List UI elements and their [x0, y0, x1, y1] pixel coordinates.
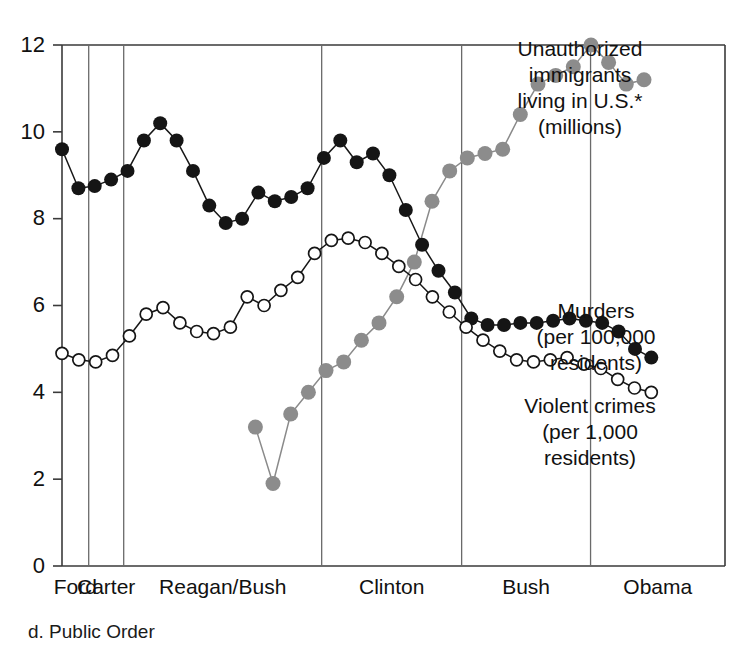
- series-0-point-0: [248, 420, 263, 435]
- annotation-violent-crimes-line-1: (per 1,000: [542, 420, 638, 443]
- series-2-point-6: [157, 302, 169, 314]
- series-1-point-22: [415, 238, 429, 252]
- series-2-point-2: [90, 356, 102, 368]
- series-1-point-20: [382, 168, 396, 182]
- series-0-point-14: [495, 142, 510, 157]
- series-2-point-28: [528, 356, 540, 368]
- y-tick-label-5: 10: [21, 119, 45, 144]
- series-1-point-13: [268, 194, 282, 208]
- series-0-point-3: [301, 385, 316, 400]
- public-order-figure: 024681012 FordCarterReagan/BushClintonBu…: [0, 0, 749, 657]
- annotation-murders-line-0: Murders: [557, 299, 634, 322]
- series-annotations: Unauthorizedimmigrantsliving in U.S.*(mi…: [518, 37, 656, 469]
- series-2-point-19: [376, 247, 388, 259]
- annotation-murders-line-2: residents): [550, 351, 642, 374]
- series-0-point-7: [372, 315, 387, 330]
- series-0-point-2: [283, 407, 298, 422]
- x-era-label-bush: Bush: [502, 575, 550, 598]
- x-era-label-obama: Obama: [623, 575, 692, 598]
- series-1-point-27: [497, 318, 511, 332]
- series-1-point-4: [121, 164, 135, 178]
- series-2-point-1: [73, 354, 85, 366]
- series-2-point-27: [511, 354, 523, 366]
- series-0-point-10: [425, 194, 440, 209]
- series-1-point-2: [88, 179, 102, 193]
- series-1-point-26: [481, 318, 495, 332]
- series-2-point-5: [140, 308, 152, 320]
- series-0-point-8: [389, 289, 404, 304]
- annotation-murders-line-1: (per 100,000: [536, 325, 655, 348]
- x-era-label-reagan-bush: Reagan/Bush: [159, 575, 286, 598]
- series-2-point-24: [460, 321, 472, 333]
- series-1-point-9: [202, 199, 216, 213]
- series-1-point-18: [350, 155, 364, 169]
- series-0-point-12: [460, 150, 475, 165]
- x-axis-labels: FordCarterReagan/BushClintonBushObama: [54, 575, 693, 598]
- series-1-point-10: [219, 216, 233, 230]
- series-2-point-33: [612, 373, 624, 385]
- series-0-point-11: [442, 163, 457, 178]
- annotation-violent-crimes-line-0: Violent crimes: [524, 394, 656, 417]
- y-tick-label-6: 12: [21, 32, 45, 57]
- series-1-point-23: [432, 264, 446, 278]
- y-tick-label-3: 6: [33, 292, 45, 317]
- x-era-label-carter: Carter: [77, 575, 135, 598]
- series-2-point-34: [629, 382, 641, 394]
- series-1-point-0: [55, 142, 69, 156]
- y-tick-label-4: 8: [33, 205, 45, 230]
- series-2-point-12: [258, 300, 270, 312]
- axis-ticks: [53, 45, 62, 566]
- series-1-point-5: [137, 134, 151, 148]
- annotation-unauthorized-immigrants-line-0: Unauthorized: [518, 37, 643, 60]
- y-tick-label-1: 2: [33, 466, 45, 491]
- series-0-point-22: [637, 72, 652, 87]
- series-2-point-25: [477, 334, 489, 346]
- series-1-point-8: [186, 164, 200, 178]
- series-1-point-19: [366, 147, 380, 161]
- series-2-point-3: [107, 349, 119, 361]
- series-1-point-28: [513, 316, 527, 330]
- series-2-point-15: [309, 247, 321, 259]
- series-1-point-1: [71, 181, 85, 195]
- series-0-point-4: [319, 363, 334, 378]
- annotation-murders: Murders(per 100,000residents): [536, 299, 655, 374]
- x-era-label-clinton: Clinton: [359, 575, 424, 598]
- series-0-point-13: [478, 146, 493, 161]
- series-1-point-14: [284, 190, 298, 204]
- series-2-point-22: [426, 291, 438, 303]
- figure-caption: d. Public Order: [28, 621, 155, 643]
- series-1-point-17: [333, 134, 347, 148]
- series-2-point-8: [191, 326, 203, 338]
- annotation-violent-crimes: Violent crimes(per 1,000residents): [524, 394, 656, 469]
- series-0-point-5: [336, 354, 351, 369]
- series-2-point-17: [342, 232, 354, 244]
- series-0-point-1: [266, 476, 281, 491]
- series-2-point-14: [292, 271, 304, 283]
- series-1-point-3: [104, 173, 118, 187]
- y-tick-label-0: 0: [33, 553, 45, 578]
- series-2-point-7: [174, 317, 186, 329]
- annotation-unauthorized-immigrants-line-1: immigrants: [529, 63, 632, 86]
- annotation-unauthorized-immigrants-line-3: (millions): [538, 115, 622, 138]
- series-1-point-11: [235, 212, 249, 226]
- series-0-point-9: [407, 255, 422, 270]
- series-1-point-36: [644, 351, 658, 365]
- line-chart: 024681012 FordCarterReagan/BushClintonBu…: [0, 0, 749, 657]
- annotation-unauthorized-immigrants-line-2: living in U.S.*: [518, 89, 643, 112]
- series-2-point-10: [224, 321, 236, 333]
- series-1-point-7: [170, 134, 184, 148]
- series-1-point-12: [251, 186, 265, 200]
- y-tick-label-2: 4: [33, 379, 45, 404]
- series-1-point-6: [153, 116, 167, 130]
- series-1-point-21: [399, 203, 413, 217]
- series-2-point-23: [443, 306, 455, 318]
- series-2-point-0: [56, 347, 68, 359]
- series-1-point-24: [448, 286, 462, 300]
- series-2-point-11: [241, 291, 253, 303]
- y-axis-labels: 024681012: [21, 32, 45, 578]
- series-2-point-4: [123, 330, 135, 342]
- series-2-point-9: [208, 328, 220, 340]
- series-2-point-16: [325, 234, 337, 246]
- series-2-point-20: [393, 260, 405, 272]
- series-2-point-13: [275, 284, 287, 296]
